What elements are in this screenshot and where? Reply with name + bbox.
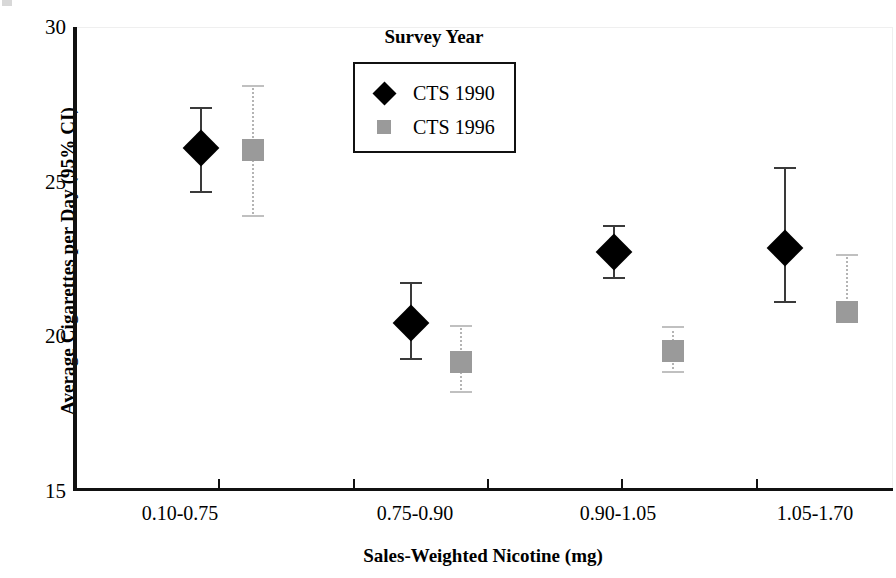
square-marker xyxy=(450,351,472,373)
diamond-marker xyxy=(393,305,430,342)
error-bar-cap-lower xyxy=(242,215,264,217)
error-bar-cap-upper xyxy=(190,107,212,109)
legend-title: Survey Year xyxy=(353,26,515,48)
square-marker xyxy=(836,301,858,323)
legend-entry-cts-1996: CTS 1996 xyxy=(355,110,518,144)
x-axis-title: Sales-Weighted Nicotine (mg) xyxy=(73,545,893,567)
plot-right-border xyxy=(892,27,893,491)
error-bar-cap-upper xyxy=(450,325,472,327)
error-bar-cap-upper xyxy=(836,254,858,256)
error-bar-cap-upper xyxy=(774,167,796,169)
error-bar-cap-lower xyxy=(450,391,472,393)
x-axis-tick-1 xyxy=(218,479,220,491)
legend-swatch-cell xyxy=(355,85,413,102)
diamond-marker xyxy=(767,230,804,267)
square-marker xyxy=(242,139,264,161)
legend-swatch-cell xyxy=(355,120,413,134)
y-tick-label-20: 20 xyxy=(26,326,66,347)
error-bar-cap-upper xyxy=(242,85,264,87)
x-tick-label-3: 0.90-1.05 xyxy=(528,503,708,523)
x-axis-tick-5 xyxy=(756,479,758,491)
x-axis-tick-2 xyxy=(353,479,355,491)
scan-artifact xyxy=(2,0,12,6)
x-tick-label-1: 0.10-0.75 xyxy=(90,503,270,523)
diamond-marker xyxy=(596,234,633,271)
x-axis-tick-4 xyxy=(621,479,623,491)
y-axis-line xyxy=(73,27,77,491)
square-marker-icon xyxy=(377,120,391,134)
error-bar-cap-lower xyxy=(662,371,684,373)
x-axis-tick-3 xyxy=(487,479,489,491)
x-tick-label-4: 1.05-1.70 xyxy=(725,503,896,523)
y-axis-tick-labels: 30 25 20 15 xyxy=(20,0,66,578)
legend-label: CTS 1996 xyxy=(413,117,495,137)
error-bar-cap-upper xyxy=(400,282,422,284)
square-marker xyxy=(662,340,684,362)
error-bar-cap-lower xyxy=(400,358,422,360)
legend-label: CTS 1990 xyxy=(413,83,495,103)
y-tick-label-30: 30 xyxy=(26,17,66,38)
diamond-marker xyxy=(183,130,220,167)
x-axis-line xyxy=(73,488,893,491)
error-bar-cap-lower xyxy=(603,277,625,279)
legend-box: CTS 1990 CTS 1996 xyxy=(353,62,516,153)
chart-figure: Average Cigarettes per Day (95% CI) 30 2… xyxy=(0,0,896,578)
error-bar-cap-upper xyxy=(662,326,684,328)
x-tick-label-2: 0.75-0.90 xyxy=(325,503,505,523)
diamond-marker-icon xyxy=(372,81,396,105)
error-bar-cap-lower xyxy=(190,191,212,193)
error-bar-cap-upper xyxy=(603,225,625,227)
error-bar-cap-lower xyxy=(774,301,796,303)
y-tick-label-25: 25 xyxy=(26,172,66,193)
legend-entry-cts-1990: CTS 1990 xyxy=(355,76,518,110)
y-tick-label-15: 15 xyxy=(26,481,66,502)
